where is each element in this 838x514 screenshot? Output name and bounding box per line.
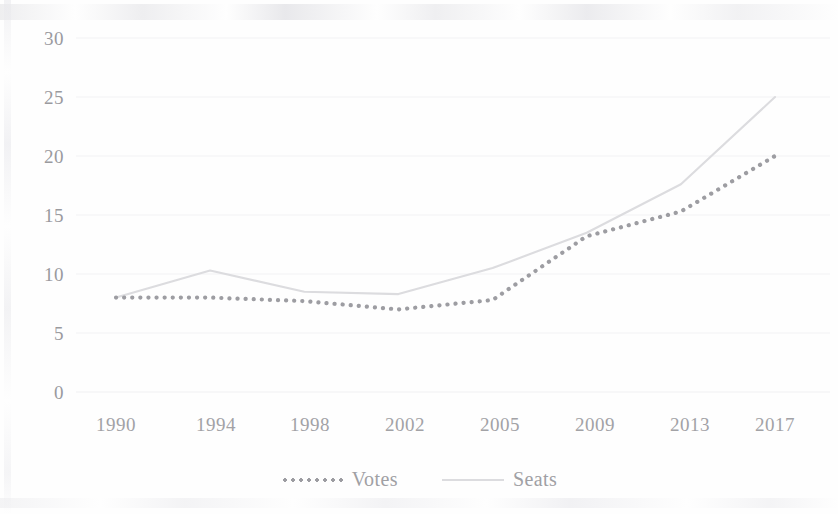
- y-axis-tick-30: 30: [18, 28, 64, 50]
- legend-item-seats[interactable]: Seats: [442, 468, 557, 491]
- x-axis-tick-2009: 2009: [560, 414, 630, 436]
- y-axis-tick-10: 10: [18, 264, 64, 286]
- line-chart: 30 25 20 15 10 5 0 1990 1994 1998 2002 2…: [0, 0, 838, 514]
- legend-swatch-dotted-icon: [281, 477, 343, 483]
- y-axis-tick-0: 0: [18, 382, 64, 404]
- series-votes: [116, 156, 775, 309]
- gridlines: [76, 38, 830, 392]
- x-axis-tick-1994: 1994: [181, 414, 251, 436]
- plot-area: [0, 0, 838, 514]
- legend-swatch-solid-icon: [442, 479, 504, 481]
- y-axis-tick-25: 25: [18, 87, 64, 109]
- x-axis-tick-1990: 1990: [81, 414, 151, 436]
- chart-legend: Votes Seats: [0, 468, 838, 491]
- series-seats: [116, 97, 775, 298]
- y-axis-tick-15: 15: [18, 205, 64, 227]
- x-axis-tick-2013: 2013: [655, 414, 725, 436]
- y-axis-tick-5: 5: [18, 323, 64, 345]
- x-axis-tick-1998: 1998: [275, 414, 345, 436]
- legend-label-seats: Seats: [513, 468, 557, 491]
- y-axis-tick-20: 20: [18, 146, 64, 168]
- x-axis-tick-2017: 2017: [740, 414, 810, 436]
- x-axis-tick-2002: 2002: [370, 414, 440, 436]
- x-axis-tick-2005: 2005: [465, 414, 535, 436]
- legend-item-votes[interactable]: Votes: [281, 468, 398, 491]
- legend-label-votes: Votes: [352, 468, 398, 491]
